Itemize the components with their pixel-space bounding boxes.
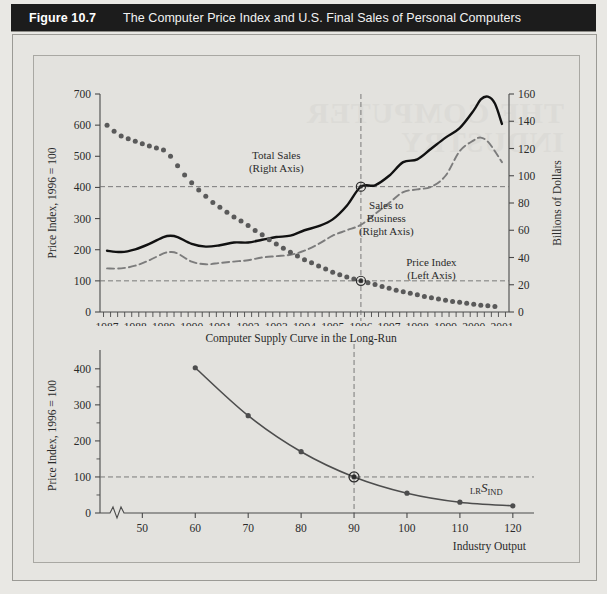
- price-index-dot: [394, 288, 399, 293]
- supply-curve-point: [246, 413, 251, 418]
- x-axis-tick-label: 1994: [293, 321, 316, 326]
- x-axis-tick-label: 1999: [434, 321, 457, 326]
- x-axis-tick-label: 100: [398, 522, 416, 534]
- price-index-dot: [316, 263, 321, 268]
- price-index-dot: [457, 300, 462, 305]
- price-index-dot: [408, 291, 413, 296]
- price-index-dot: [196, 187, 201, 192]
- price-index-dot: [175, 163, 180, 168]
- price-index-dot: [126, 136, 131, 141]
- x-axis-tick-label: 1995: [321, 321, 344, 326]
- right-axis-tick-label: 20: [518, 279, 530, 291]
- price-index-dot: [337, 272, 342, 277]
- price-index-dot: [112, 129, 117, 134]
- price-index-dot: [246, 223, 251, 228]
- total-sales-1996-marker-center: [359, 185, 363, 189]
- x-axis-tick-label: 70: [242, 522, 254, 534]
- bottom-chart-axes: 01002003004005060708090100110120Price In…: [46, 350, 534, 553]
- right-axis-tick-label: 100: [518, 170, 536, 182]
- supply-curve-point: [299, 449, 304, 454]
- price-index-label: Price Index(Left Axis): [406, 256, 457, 282]
- price-index-dot: [422, 294, 427, 299]
- sales-to-business-line: [107, 138, 502, 269]
- price-index-dot: [295, 253, 300, 258]
- price-index-dot: [330, 270, 335, 275]
- price-index-dot: [260, 232, 265, 237]
- price-index-dot: [253, 228, 258, 233]
- top-chart-axes: 0100200300400500600700020406080100120140…: [46, 88, 563, 326]
- price-index-dot: [365, 280, 370, 285]
- x-axis-line-with-break: [100, 507, 534, 518]
- figure-title: The Computer Price Index and U.S. Final …: [123, 11, 521, 25]
- left-axis-tick-label: 600: [74, 119, 92, 131]
- price-index-dot: [203, 194, 208, 199]
- x-axis-tick-label: 1989: [152, 321, 175, 326]
- price-index-dot: [380, 284, 385, 289]
- price-index-dot: [464, 301, 469, 306]
- x-axis-tick-label: 90: [348, 522, 360, 534]
- x-axis-tick-label: 1998: [406, 321, 429, 326]
- price-index-dot: [344, 275, 349, 280]
- supply-curve-point: [457, 500, 462, 505]
- price-index-1996-marker-center: [359, 279, 363, 283]
- price-index-dot: [471, 302, 476, 307]
- price-index-dot: [302, 257, 307, 262]
- y-axis-tick-label: 300: [74, 399, 92, 411]
- left-axis-title: Price Index, 1996 = 100: [46, 147, 59, 258]
- x-axis-tick-label: 1993: [265, 321, 288, 326]
- lr-supply-curve-label: LRSIND: [470, 480, 502, 497]
- price-index-dot: [478, 303, 483, 308]
- x-axis-tick-label: 2000: [462, 321, 485, 326]
- total-sales-label: Total Sales(Right Axis): [249, 149, 304, 175]
- x-axis-tick-label: 1990: [180, 321, 203, 326]
- top-chart-reference-lines: [100, 94, 509, 321]
- price-index-dot: [450, 299, 455, 304]
- right-axis-tick-label: 160: [518, 88, 536, 100]
- figure-inner-panel: THE COMPUTER INDUSTRY 010020030040050060…: [33, 55, 580, 563]
- price-index-dot: [105, 123, 110, 128]
- price-index-dot: [274, 242, 279, 247]
- right-axis-tick-label: 0: [518, 306, 524, 318]
- x-axis-title: Industry Output: [453, 540, 527, 553]
- top-chart-annotations: Total Sales(Right Axis)Sales toBusiness(…: [249, 149, 457, 282]
- y-axis-tick-label: 100: [74, 471, 92, 483]
- price-index-dot: [492, 304, 497, 309]
- price-index-dot: [443, 298, 448, 303]
- bottom-chart-reference-lines: [100, 344, 534, 513]
- x-axis-tick-label: 60: [190, 522, 202, 534]
- price-index-dot: [182, 172, 187, 177]
- figure-number: Figure 10.7: [29, 11, 96, 25]
- y-axis-tick-label: 200: [74, 435, 92, 447]
- price-index-dot: [189, 180, 194, 185]
- left-axis-tick-label: 300: [74, 213, 92, 225]
- price-index-dot: [119, 134, 124, 139]
- price-index-dot: [281, 246, 286, 251]
- computer-price-index-chart: 0100200300400500600700020406080100120140…: [34, 56, 579, 326]
- price-index-dot: [436, 296, 441, 301]
- x-axis-tick-label: 110: [451, 522, 468, 534]
- price-index-dot: [161, 148, 166, 153]
- figure-header-bar: Figure 10.7 The Computer Price Index and…: [11, 4, 596, 31]
- x-axis-tick-label: 1991: [208, 321, 231, 326]
- x-axis-tick-label: 1996: [349, 321, 372, 326]
- figure-page: Figure 10.7 The Computer Price Index and…: [0, 0, 607, 594]
- y-axis-tick-label: 400: [74, 363, 92, 375]
- supply-curve-point: [193, 365, 198, 370]
- figure-outer-panel: THE COMPUTER INDUSTRY 010020030040050060…: [12, 34, 597, 581]
- x-axis-tick-label: 2001: [490, 321, 513, 326]
- price-index-dot: [133, 139, 138, 144]
- right-axis-tick-label: 120: [518, 143, 536, 155]
- right-axis-tick-label: 80: [518, 197, 530, 209]
- left-axis-tick-label: 200: [74, 244, 92, 256]
- x-axis-tick-label: 80: [295, 522, 307, 534]
- total-sales-line: [107, 97, 502, 253]
- bottom-chart-title: Computer Supply Curve in the Long-Run: [205, 332, 397, 345]
- x-axis-tick-label: 1992: [237, 321, 260, 326]
- sales-to-business-label: Sales toBusiness(Right Axis): [359, 199, 414, 238]
- y-axis-title: Price Index, 1996 = 100: [46, 380, 59, 491]
- price-index-dot: [154, 145, 159, 150]
- price-index-dot: [429, 295, 434, 300]
- price-index-dot: [224, 210, 229, 215]
- price-index-dot: [351, 276, 356, 281]
- right-axis-tick-label: 60: [518, 224, 530, 236]
